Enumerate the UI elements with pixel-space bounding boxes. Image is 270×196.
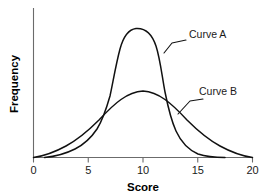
y-axis-title: Frequency — [8, 54, 20, 113]
curve-b-label: Curve B — [199, 85, 237, 97]
x-tick-label-10: 10 — [137, 164, 149, 176]
curve-a-label: Curve A — [189, 28, 226, 40]
chart-canvas: 0 5 10 15 20 Score Frequency Curve A Cur… — [0, 0, 270, 196]
x-tick-label-20: 20 — [246, 164, 258, 176]
x-axis-title: Score — [127, 181, 159, 193]
frequency-distribution-chart: 0 5 10 15 20 Score Frequency Curve A Cur… — [0, 0, 270, 196]
x-tick-label-5: 5 — [85, 164, 91, 176]
x-tick-label-15: 15 — [192, 164, 204, 176]
x-tick-label-0: 0 — [30, 164, 36, 176]
